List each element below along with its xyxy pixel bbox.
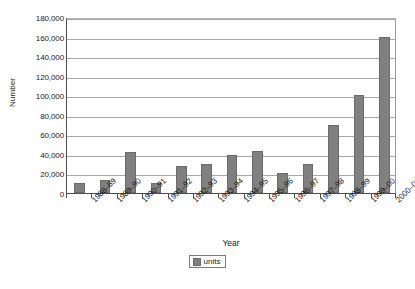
bar <box>74 183 85 193</box>
legend-label-units: units <box>204 257 221 266</box>
x-tick-label: 2000–01 <box>394 198 400 204</box>
y-tick-label: 20,000 <box>40 170 64 179</box>
legend-box: units <box>189 255 227 268</box>
x-axis-tick-labels: 1988–891989–901990–911991–921992–931993–… <box>66 198 396 238</box>
y-tick-label: 80,000 <box>40 111 64 120</box>
y-axis-tick-labels: 180,000160,000140,000120,000100,00080,00… <box>26 18 64 194</box>
x-tick-label: 1988–89 <box>90 198 96 204</box>
x-tick-label: 1991–92 <box>166 198 172 204</box>
bar <box>379 37 390 193</box>
legend-swatch-units <box>193 258 201 266</box>
y-tick-label: 40,000 <box>40 150 64 159</box>
x-tick-label: 1999–00 <box>369 198 375 204</box>
bar-chart-figure: Number 180,000160,000140,000120,000100,0… <box>0 0 415 289</box>
x-tick-label: 1995–96 <box>267 198 273 204</box>
y-tick-label: 120,000 <box>36 72 64 81</box>
x-tick-label: 1997–98 <box>318 198 324 204</box>
y-tick-label: 160,000 <box>36 33 64 42</box>
x-tick-label: 1992–93 <box>191 198 197 204</box>
y-tick-label: 0 <box>60 190 64 199</box>
y-tick-label: 60,000 <box>40 131 64 140</box>
y-axis-title: Number <box>8 63 17 123</box>
y-tick-label: 140,000 <box>36 53 64 62</box>
y-tick-label: 180,000 <box>36 14 64 23</box>
x-tick-label: 1990–91 <box>140 198 146 204</box>
x-tick-label: 1994–95 <box>242 198 248 204</box>
legend: units <box>0 255 415 268</box>
x-tick-label: 1998–99 <box>344 198 350 204</box>
x-tick-label: 1989–90 <box>115 198 121 204</box>
y-tick-label: 100,000 <box>36 92 64 101</box>
x-tick-label: 1996–97 <box>293 198 299 204</box>
bars-layer <box>67 19 395 193</box>
x-axis-title: Year <box>66 238 396 248</box>
x-tick-label: 1993–94 <box>217 198 223 204</box>
plot-area <box>66 18 396 194</box>
